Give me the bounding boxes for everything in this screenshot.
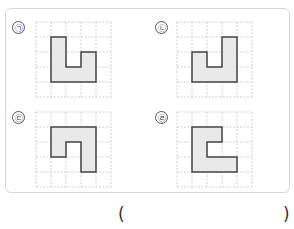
- shape-polygon: [51, 127, 96, 172]
- answer-open-paren: (: [118, 204, 125, 224]
- option-label-d: ㉣: [155, 111, 168, 124]
- shape-polygon: [192, 127, 237, 172]
- option-grid-a[interactable]: [35, 21, 112, 98]
- shape-polygon: [51, 37, 96, 82]
- option-grid-d[interactable]: [176, 111, 253, 188]
- option-label-a: ㉠: [12, 21, 25, 34]
- option-label-c: ㉢: [12, 111, 25, 124]
- shape-polygon: [192, 37, 237, 82]
- option-label-b: ㉡: [155, 21, 168, 34]
- answer-close-paren: ): [283, 204, 290, 224]
- answer-field[interactable]: [132, 206, 282, 226]
- option-grid-c[interactable]: [35, 111, 112, 188]
- option-grid-b[interactable]: [176, 21, 253, 98]
